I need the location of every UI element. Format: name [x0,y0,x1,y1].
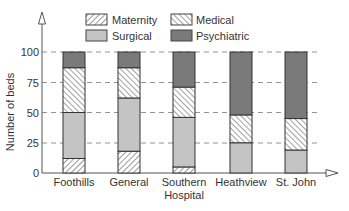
x-axis-arrow-icon [326,170,338,177]
legend-swatch-maternity [86,14,107,25]
bar-segment-surgical [173,117,195,167]
legend-swatch-surgical [86,30,107,41]
bar-segment-medical [118,68,140,98]
y-tick-75: 75 [27,77,39,89]
legend-label-psychiatric: Psychiatric [196,30,250,42]
bar-segment-surgical [63,113,85,159]
x-label-foothills: Foothills [54,176,95,188]
y-tick-0: 0 [33,167,39,179]
bar-segment-maternity [173,167,195,173]
legend-label-maternity: Maternity [112,14,158,26]
stacked-bar-chart: Maternity Medical Surgical Psychiatric 0… [0,0,349,211]
y-axis-label: Number of beds [4,72,16,151]
y-tick-100: 100 [21,46,39,58]
legend-label-surgical: Surgical [112,30,152,42]
bar-segment-psychiatric [118,52,140,68]
y-axis-arrow-icon [39,12,46,24]
legend: Maternity Medical Surgical Psychiatric [86,14,250,42]
bar-segment-surgical [230,143,252,173]
y-tick-25: 25 [27,137,39,149]
legend-swatch-medical [171,14,192,25]
bar-segment-medical [230,115,252,143]
bar-segment-psychiatric [285,52,307,119]
bar-segment-surgical [285,150,307,173]
x-label-heathview: Heathview [215,176,266,188]
x-label-st-john: St. John [276,176,316,188]
y-ticks: 0 25 50 75 100 [21,46,39,179]
y-tick-50: 50 [27,107,39,119]
bar-segment-medical [173,87,195,117]
bar-segment-maternity [118,151,140,173]
bar-segment-medical [285,119,307,150]
x-category-labels: Foothills General Southern Hospital Heat… [54,176,317,201]
x-label-southern-line2: Hospital [164,189,204,201]
legend-swatch-psychiatric [171,30,192,41]
bar-segment-medical [63,68,85,113]
bar-segment-surgical [118,98,140,151]
x-label-southern: Southern [162,176,207,188]
bar-segment-psychiatric [230,52,252,115]
bar-segment-psychiatric [173,52,195,87]
bar-segment-psychiatric [63,52,85,68]
bar-segment-maternity [63,158,85,173]
legend-label-medical: Medical [196,14,234,26]
x-label-general: General [109,176,148,188]
